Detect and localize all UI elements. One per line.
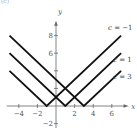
x-tick-label: −4 xyxy=(14,110,25,118)
curve-abs-x-minus-c xyxy=(10,36,122,106)
x-tick-label: −2 xyxy=(32,110,42,118)
curve-label: c = −1 xyxy=(108,24,133,32)
curve-label: c = 1 xyxy=(113,56,132,64)
curve-abs-x-minus-c xyxy=(10,53,122,106)
y-axis-label: y xyxy=(57,8,63,16)
x-axis-label: x xyxy=(131,103,135,111)
x-tick-label: 6 xyxy=(110,110,115,118)
y-tick-label: 8 xyxy=(49,32,53,40)
curve-abs-x-minus-c xyxy=(10,36,122,106)
panel-label: (c) xyxy=(1,0,9,4)
x-tick-label: 4 xyxy=(91,110,96,118)
x-axis-arrow-icon xyxy=(124,104,129,108)
x-tick-label: 2 xyxy=(72,110,76,118)
curve-label: c = 3 xyxy=(113,73,132,81)
y-tick-label: 6 xyxy=(49,50,54,58)
graph-figure: (c)xy−4−2246−268c = −1c = 1c = 3 xyxy=(0,0,137,137)
y-axis-arrow-icon xyxy=(54,21,58,26)
y-tick-label: −2 xyxy=(43,120,53,128)
coordinate-plane: (c)xy−4−2246−268c = −1c = 1c = 3 xyxy=(0,0,137,137)
